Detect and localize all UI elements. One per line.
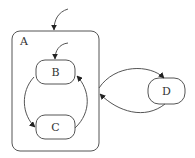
state-d-label: D bbox=[162, 85, 171, 98]
state-a-label: A bbox=[19, 35, 29, 48]
state-c-label: C bbox=[51, 121, 59, 134]
state-d[interactable]: D bbox=[148, 78, 185, 104]
initial-transition-a bbox=[54, 9, 68, 30]
state-b[interactable]: B bbox=[36, 60, 75, 84]
state-c[interactable]: C bbox=[36, 115, 75, 139]
state-b-label: B bbox=[51, 66, 59, 79]
statechart-diagram: A B C D bbox=[0, 0, 195, 158]
